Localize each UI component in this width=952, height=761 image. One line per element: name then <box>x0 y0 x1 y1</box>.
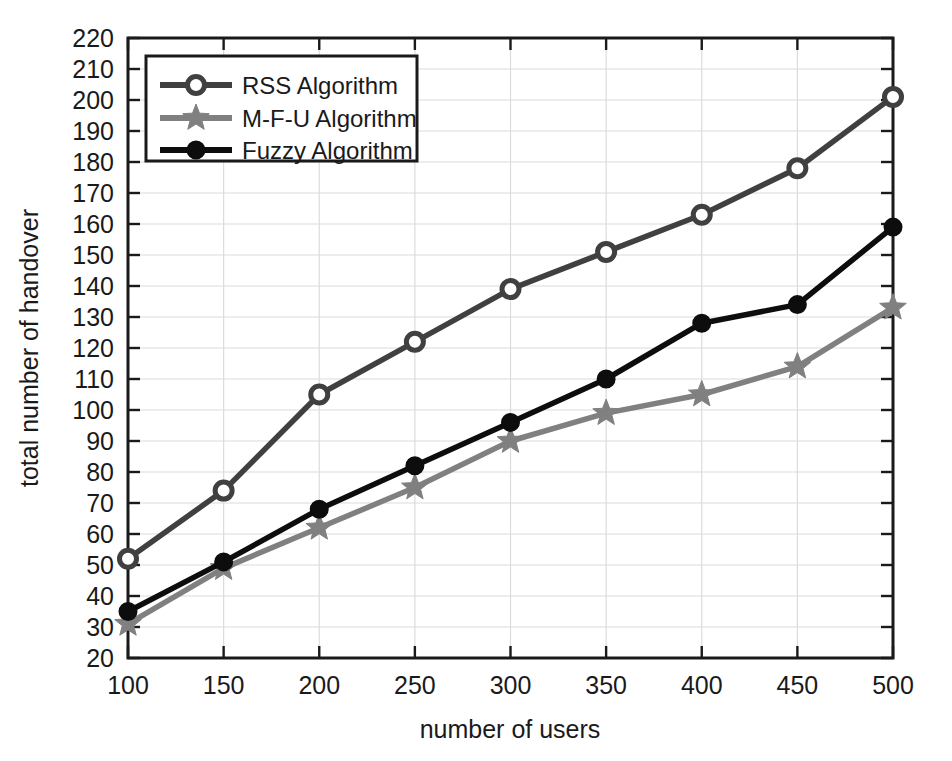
x-tick-label: 300 <box>490 671 532 699</box>
y-tick-label: 170 <box>72 179 114 207</box>
y-tick-label: 40 <box>86 582 114 610</box>
y-tick-label: 30 <box>86 613 114 641</box>
y-tick-label: 120 <box>72 334 114 362</box>
x-tick-label: 350 <box>585 671 627 699</box>
data-point-marker[interactable] <box>789 160 806 177</box>
y-tick-label: 100 <box>72 396 114 424</box>
y-tick-label: 70 <box>86 489 114 517</box>
data-point-marker[interactable] <box>693 315 710 332</box>
chart-background <box>0 0 952 761</box>
y-tick-label: 210 <box>72 55 114 83</box>
y-tick-label: 50 <box>86 551 114 579</box>
data-point-marker[interactable] <box>215 482 232 499</box>
legend-item-label: Fuzzy Algorithm <box>242 137 413 164</box>
data-point-marker[interactable] <box>598 243 615 260</box>
legend-item-rss-algorithm[interactable]: RSS Algorithm <box>160 72 398 99</box>
data-point-marker[interactable] <box>120 550 137 567</box>
y-tick-label: 90 <box>86 427 114 455</box>
data-point-marker[interactable] <box>406 333 423 350</box>
y-tick-label: 190 <box>72 117 114 145</box>
x-axis-title: number of users <box>420 715 601 743</box>
y-tick-label: 110 <box>74 365 114 393</box>
x-tick-label: 450 <box>777 671 819 699</box>
legend-marker-icon[interactable] <box>188 77 205 94</box>
data-point-marker[interactable] <box>598 371 615 388</box>
y-axis-title: total number of handover <box>15 209 43 487</box>
handover-line-chart: 2030405060708090100110120130140150160170… <box>0 0 952 761</box>
x-tick-label: 250 <box>394 671 436 699</box>
y-tick-label: 140 <box>72 272 114 300</box>
legend-item-label: RSS Algorithm <box>242 72 398 99</box>
data-point-marker[interactable] <box>406 457 423 474</box>
y-tick-label: 20 <box>86 644 114 672</box>
data-point-marker[interactable] <box>502 414 519 431</box>
x-tick-label: 400 <box>681 671 723 699</box>
legend-item-label: M-F-U Algorithm <box>242 105 417 132</box>
y-tick-label: 220 <box>72 24 114 52</box>
data-point-marker[interactable] <box>789 296 806 313</box>
data-point-marker[interactable] <box>885 219 902 236</box>
x-tick-label: 500 <box>872 671 914 699</box>
data-point-marker[interactable] <box>311 386 328 403</box>
x-tick-label: 200 <box>298 671 340 699</box>
chart-legend[interactable]: RSS AlgorithmM-F-U AlgorithmFuzzy Algori… <box>146 56 417 164</box>
data-point-marker[interactable] <box>885 88 902 105</box>
y-tick-label: 130 <box>72 303 114 331</box>
data-point-marker[interactable] <box>120 603 137 620</box>
legend-marker-icon[interactable] <box>188 142 205 159</box>
y-tick-label: 80 <box>86 458 114 486</box>
y-tick-label: 160 <box>72 210 114 238</box>
y-tick-label: 180 <box>72 148 114 176</box>
x-tick-label: 150 <box>203 671 245 699</box>
y-tick-label: 150 <box>72 241 114 269</box>
y-tick-label: 200 <box>72 86 114 114</box>
data-point-marker[interactable] <box>502 281 519 298</box>
figure-container: 2030405060708090100110120130140150160170… <box>0 0 952 761</box>
data-point-marker[interactable] <box>215 553 232 570</box>
y-tick-label: 60 <box>86 520 114 548</box>
x-tick-label: 100 <box>107 671 149 699</box>
data-point-marker[interactable] <box>311 501 328 518</box>
data-point-marker[interactable] <box>693 206 710 223</box>
